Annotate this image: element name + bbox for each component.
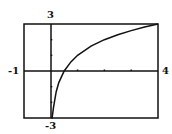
graph	[0, 0, 172, 134]
x-min-label: -1	[8, 66, 19, 76]
x-max-label: 4	[162, 66, 169, 76]
y-max-label: 3	[47, 10, 54, 20]
y-min-label: -3	[45, 121, 56, 131]
